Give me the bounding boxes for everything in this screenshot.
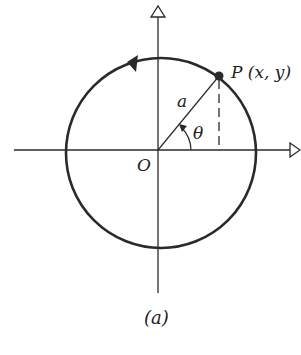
point-label: P (x, y) [230, 62, 291, 82]
circle [66, 58, 256, 248]
point-p [215, 72, 224, 81]
radius-label: a [177, 91, 187, 111]
unit-circle-diagram: P (x, y) a θ O (a) [0, 0, 301, 355]
angle-label: θ [193, 123, 203, 143]
direction-arrow-icon [127, 55, 138, 72]
x-axis-arrowhead-icon [290, 143, 300, 157]
angle-arrow-icon [179, 124, 187, 132]
angle-arc [182, 128, 191, 150]
figure-caption: (a) [144, 307, 169, 328]
y-axis-arrowhead-icon [151, 6, 165, 17]
origin-label: O [137, 155, 151, 175]
